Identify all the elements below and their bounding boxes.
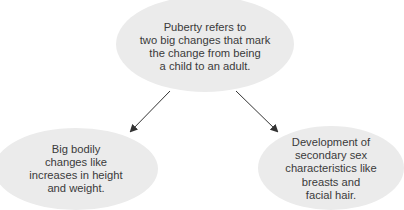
text-line: Development of [285,136,376,149]
text-line: breasts and [285,176,376,189]
arrow-to-secondary-sex [236,91,277,131]
text-line: characteristics like [285,162,376,175]
node-text: Development of secondary sex characteris… [285,136,376,202]
text-line: secondary sex [285,149,376,162]
node-text: Puberty refers to two big changes that m… [140,21,271,74]
node-bodily-changes: Big bodily changes like increases in hei… [0,128,158,210]
text-line: Puberty refers to [140,21,271,34]
text-line: and weight. [29,182,122,195]
text-line: increases in height [29,169,122,182]
text-line: the change from being [140,47,271,60]
node-secondary-sex-characteristics: Development of secondary sex characteris… [258,126,404,210]
node-text: Big bodily changes like increases in hei… [29,143,122,196]
node-puberty-definition: Puberty refers to two big changes that m… [116,0,294,92]
text-line: Big bodily [29,143,122,156]
text-line: a child to an adult. [140,60,271,73]
text-line: changes like [29,156,122,169]
text-line: facial hair. [285,189,376,202]
text-line: two big changes that mark [140,34,271,47]
arrow-to-bodily-changes [131,91,170,131]
